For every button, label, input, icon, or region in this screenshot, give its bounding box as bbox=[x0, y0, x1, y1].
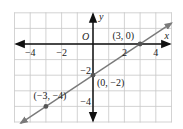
axes bbox=[17, 14, 170, 120]
y-axis-label: y bbox=[98, 11, 104, 22]
x-tick-label: 2 bbox=[122, 47, 127, 58]
origin-label: O bbox=[82, 31, 89, 42]
point-label: (0, −2) bbox=[97, 77, 124, 89]
x-tick-label: −2 bbox=[56, 47, 67, 58]
x-axis-label: x bbox=[164, 30, 170, 41]
y-tick-label: −2 bbox=[80, 65, 91, 76]
point-label: (−3, −4) bbox=[33, 90, 66, 102]
data-point bbox=[138, 42, 143, 47]
x-tick-label: −4 bbox=[25, 47, 36, 58]
data-point bbox=[44, 104, 49, 109]
line-y-equals-two-thirds-x-minus-two bbox=[21, 23, 172, 123]
x-tick-label: 4 bbox=[153, 47, 158, 58]
graph-line bbox=[21, 23, 172, 123]
point-label: (3, 0) bbox=[112, 30, 134, 42]
data-point bbox=[91, 73, 96, 78]
y-tick-label: −4 bbox=[80, 96, 91, 107]
coordinate-plane: −4−224−2−4yxO(3, 0)(0, −2)(−3, −4) bbox=[0, 0, 183, 129]
